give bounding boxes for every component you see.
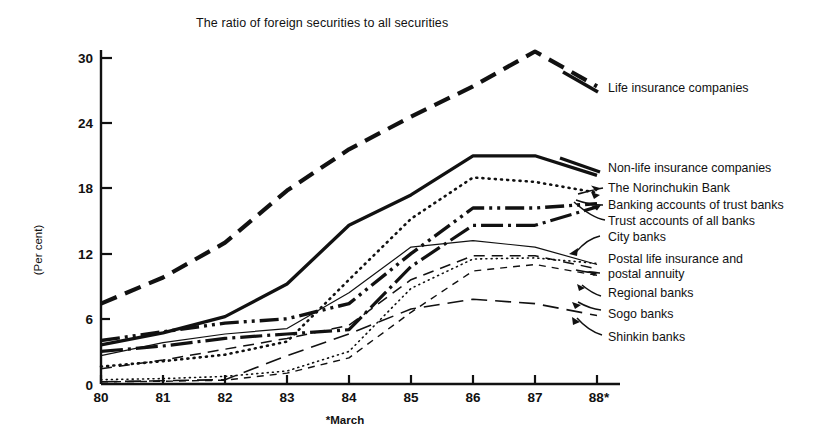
x-axis-ticks (101, 375, 597, 384)
x-tick-label-81: 81 (155, 390, 171, 405)
y-axis-title: (Per cent) (32, 225, 44, 276)
series-label-trust-all: Trust accounts of all banks (608, 214, 755, 228)
x-tick-label-80: 80 (93, 390, 108, 405)
axis-group: 30 24 18 12 6 0 (Per cent) 80 81 8 (32, 50, 620, 426)
series-label-nonlife: Non-life insurance companies (608, 161, 771, 175)
leader-city (576, 236, 600, 252)
x-tick-label-85: 85 (403, 390, 419, 405)
series-line-life-insurance-companies (101, 52, 597, 304)
series-label-banking-trust: Banking accounts of trust banks (608, 198, 784, 212)
x-axis-footnote: *March (326, 414, 364, 426)
series-label-city: City banks (608, 230, 666, 244)
y-axis-ticks (101, 58, 112, 319)
series-line-shinkin-banks (101, 265, 597, 382)
leader-shinkin (577, 318, 602, 335)
arrowhead-city (569, 248, 578, 256)
chart-canvas: 30 24 18 12 6 0 (Per cent) 80 81 8 (0, 0, 826, 439)
chart-page: The ratio of foreign securities to all s… (0, 0, 826, 439)
series-label-regional: Regional banks (608, 286, 693, 300)
series-line-non-life-insurance-companies (101, 156, 597, 345)
y-tick-label-0: 0 (85, 378, 93, 393)
y-tick-label-24: 24 (78, 116, 94, 131)
series-labels-group: Life insurance companies Non-life insura… (608, 81, 784, 344)
leader-lines-group (560, 72, 605, 335)
x-tick-label-82: 82 (217, 390, 232, 405)
y-tick-label-18: 18 (78, 181, 94, 196)
series-label-norinchukin: The Norinchukin Bank (608, 181, 731, 195)
series-label-life: Life insurance companies (608, 81, 749, 95)
leader-regional (582, 285, 601, 296)
arrowhead-regional (577, 284, 585, 291)
x-tick-label-83: 83 (279, 390, 295, 405)
leader-sogo (578, 302, 601, 310)
series-label-shinkin: Shinkin banks (608, 330, 685, 344)
arrowhead-trust-all (591, 192, 600, 199)
series-label-postal-2: postal annuity (608, 267, 685, 281)
x-tick-label-84: 84 (341, 390, 357, 405)
series-lines-group (101, 52, 597, 382)
y-tick-label-6: 6 (85, 312, 93, 327)
x-tick-label-86: 86 (465, 390, 481, 405)
y-tick-label-12: 12 (78, 247, 93, 262)
series-label-sogo: Sogo banks (608, 307, 673, 321)
series-label-postal-1: Postal life insurance and (608, 252, 743, 266)
x-tick-label-88: 88* (589, 390, 610, 405)
y-tick-label-30: 30 (78, 51, 93, 66)
x-tick-label-87: 87 (527, 390, 542, 405)
series-line-postal-life-insurance-and-postal-annuity (101, 258, 597, 380)
